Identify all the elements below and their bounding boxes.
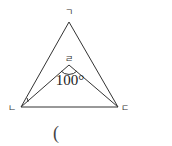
vertex-label-right: ㄷ (121, 103, 129, 113)
triangle-diagram: ㄱ ㄹ ㄴ ㄷ 100° ( (0, 0, 172, 146)
vertex-label-inner: ㄹ (65, 54, 73, 64)
vertex-label-left: ㄴ (8, 103, 16, 113)
angle-value-label: 100° (56, 72, 85, 88)
vertex-label-top: ㄱ (65, 7, 73, 17)
answer-paren: ( (53, 123, 59, 144)
